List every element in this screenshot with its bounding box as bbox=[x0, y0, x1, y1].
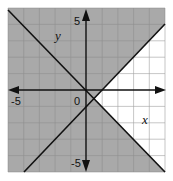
y-axis-label: y bbox=[53, 28, 61, 43]
tick-label-y-top: 5 bbox=[74, 15, 80, 27]
tick-label-y-bottom: -5 bbox=[71, 157, 81, 169]
x-axis-arrow-right-icon bbox=[155, 86, 166, 94]
tick-label-x-left: -5 bbox=[11, 95, 21, 107]
graph: y x 5 -5 -5 0 bbox=[0, 0, 173, 181]
origin-label: 0 bbox=[74, 95, 80, 107]
x-axis-label: x bbox=[141, 112, 148, 127]
